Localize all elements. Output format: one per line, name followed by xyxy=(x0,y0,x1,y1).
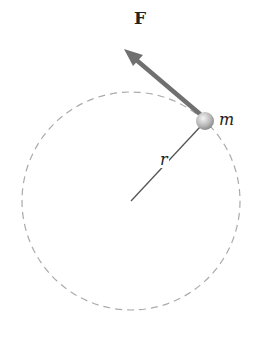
radius-label: r xyxy=(159,152,169,168)
force-arrow-shaft xyxy=(134,58,200,114)
force-label: F xyxy=(134,8,146,28)
mass-label: m xyxy=(219,110,234,129)
circular-motion-diagram xyxy=(0,0,255,339)
mass-ball xyxy=(196,112,214,130)
